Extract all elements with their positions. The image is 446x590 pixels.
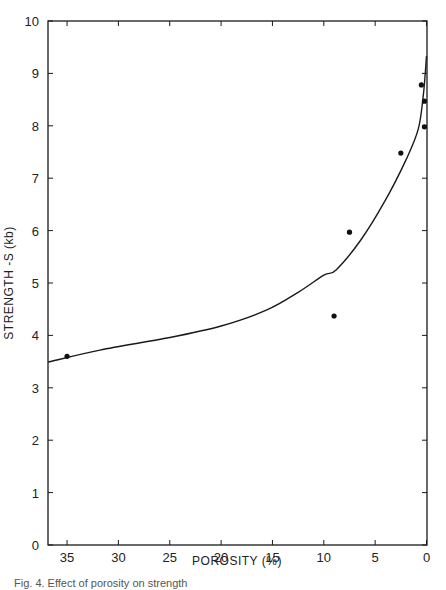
fit-curve-line	[48, 56, 427, 362]
y-tick-label: 4	[32, 328, 39, 343]
figure-caption: Fig. 4. Effect of porosity on strength	[14, 577, 187, 589]
y-axis-label: STRENGTH -S (kb)	[2, 226, 16, 339]
data-point	[422, 124, 427, 129]
plot-border	[48, 21, 427, 545]
x-tick-label: 0	[423, 550, 430, 565]
y-tick-label: 6	[32, 224, 39, 239]
y-tick-label: 9	[32, 66, 39, 81]
y-tick-label: 8	[32, 119, 39, 134]
y-tick-label: 2	[32, 433, 39, 448]
y-tick-label: 5	[32, 276, 39, 291]
data-point	[64, 354, 69, 359]
y-axis-ticks: 012345678910	[25, 14, 427, 553]
x-tick-label: 5	[372, 550, 379, 565]
y-tick-label: 1	[32, 486, 39, 501]
y-tick-label: 3	[32, 381, 39, 396]
y-tick-label: 0	[32, 538, 39, 553]
data-point	[347, 230, 352, 235]
y-tick-label: 7	[32, 171, 39, 186]
strength-porosity-chart: 35302520151050 012345678910 POROSITY (%)…	[0, 0, 446, 590]
fit-curve	[48, 56, 427, 362]
data-point	[331, 313, 336, 318]
y-tick-label: 10	[25, 14, 39, 29]
data-point	[422, 99, 427, 104]
x-tick-label: 30	[111, 550, 125, 565]
x-tick-label: 25	[163, 550, 177, 565]
data-point	[398, 150, 403, 155]
x-axis-ticks: 35302520151050	[60, 21, 430, 565]
data-point	[419, 82, 424, 87]
x-tick-label: 35	[60, 550, 74, 565]
plot-frame	[48, 21, 427, 545]
x-axis-label: POROSITY (%)	[192, 554, 282, 568]
x-tick-label: 10	[317, 550, 331, 565]
